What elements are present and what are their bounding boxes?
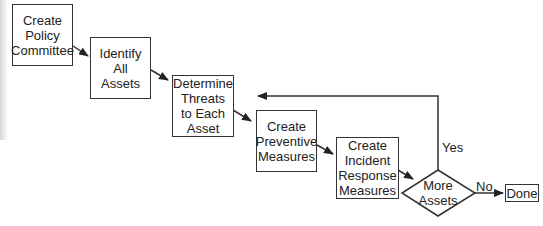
node-create-preventive-measures: Create Preventive Measures bbox=[256, 110, 317, 172]
edge-label-yes: Yes bbox=[442, 140, 463, 155]
arrow-n4-n5 bbox=[317, 145, 333, 154]
node-more-assets-label: More Assets bbox=[408, 178, 468, 208]
node-create-policy-committee: Create Policy Committee bbox=[12, 4, 73, 66]
node-determine-threats: Determine Threats to Each Asset bbox=[172, 75, 234, 137]
node-identify-all-assets: Identify All Assets bbox=[90, 37, 151, 99]
node-create-incident-response: Create Incident Response Measures bbox=[336, 137, 399, 199]
arrow-n2-n3 bbox=[151, 70, 168, 80]
arrow-n1-n2 bbox=[73, 46, 88, 56]
edge-label-no: No bbox=[476, 179, 493, 194]
node-done: Done bbox=[505, 184, 539, 202]
arrow-n3-n4 bbox=[233, 110, 251, 121]
